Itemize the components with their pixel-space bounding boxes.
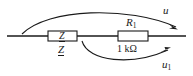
resistor-voltage-subscript: 1 [168, 63, 172, 72]
resistor-box [118, 31, 148, 41]
resistor-name-subscript: 1 [133, 21, 137, 30]
total-voltage-label-text: u [163, 4, 169, 16]
resistor-voltage-label-text: u [162, 58, 168, 70]
impedance-box-label: Z [59, 31, 65, 42]
resistor-value-label: 1 kΩ [117, 44, 137, 54]
impedance-below-label: Z [58, 44, 64, 56]
total-voltage-label: u [163, 5, 169, 16]
resistor-name-label: R1 [126, 17, 136, 28]
resistor-name-label-text: R [126, 16, 133, 28]
circuit-diagram-figure: Z Z R1 1 kΩ u u1 [0, 0, 193, 76]
resistor-voltage-label: u1 [162, 59, 171, 70]
impedance-below-label-text: Z [58, 44, 64, 56]
impedance-box-label-text: Z [59, 31, 65, 42]
upper-voltage-arc [22, 13, 176, 34]
